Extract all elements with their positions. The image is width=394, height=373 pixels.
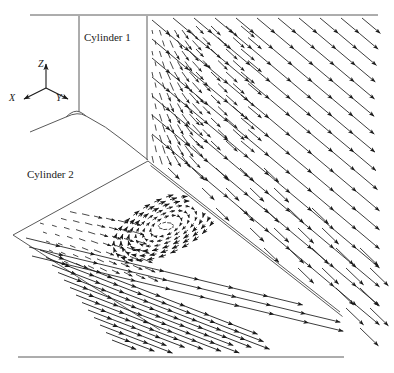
cylinder1-base-fillet <box>30 114 148 160</box>
velocity-vector <box>185 206 189 207</box>
velocity-vector-field <box>26 18 388 353</box>
velocity-vector <box>178 83 183 92</box>
velocity-vector <box>194 18 212 33</box>
velocity-vector <box>138 212 144 216</box>
velocity-vector <box>118 254 127 258</box>
velocity-vector <box>193 237 199 242</box>
velocity-vector <box>106 252 114 255</box>
velocity-vector <box>193 83 203 94</box>
velocity-vector <box>211 49 221 58</box>
velocity-vector <box>157 240 162 241</box>
flow-field-figure: Cylinder 1 Cylinder 2 Z X Y <box>0 0 394 373</box>
velocity-vector <box>312 248 329 264</box>
velocity-vector <box>82 282 106 291</box>
velocity-vector <box>240 208 254 222</box>
velocity-vector <box>167 51 170 58</box>
velocity-vector <box>94 250 101 253</box>
velocity-vector <box>338 33 357 49</box>
velocity-vector <box>155 41 156 45</box>
velocity-vector <box>73 221 79 223</box>
velocity-vector <box>202 188 214 200</box>
velocity-vector <box>175 93 180 102</box>
velocity-vector <box>151 233 153 235</box>
velocity-vector <box>209 336 233 345</box>
velocity-vector <box>100 268 107 271</box>
velocity-vector <box>64 255 99 263</box>
velocity-vector <box>357 230 380 249</box>
velocity-vector <box>152 249 158 250</box>
velocity-vector <box>88 289 112 298</box>
velocity-vector <box>172 245 179 248</box>
velocity-vector <box>249 120 270 137</box>
velocity-vector <box>189 165 208 181</box>
velocity-vector <box>61 252 66 254</box>
velocity-vector <box>182 226 186 230</box>
velocity-vector <box>175 232 180 235</box>
velocity-vector <box>257 18 275 33</box>
velocity-vector <box>70 212 77 214</box>
velocity-vector <box>288 248 304 263</box>
velocity-vector <box>112 340 136 349</box>
velocity-vector <box>143 295 167 304</box>
velocity-vector <box>152 72 153 77</box>
velocity-vector <box>249 139 270 156</box>
figure-canvas <box>0 0 394 373</box>
velocity-vector <box>315 49 334 65</box>
velocity-vector <box>170 35 189 51</box>
velocity-vector <box>209 124 229 141</box>
velocity-vector <box>233 107 244 117</box>
velocity-vector <box>291 99 312 116</box>
cylinder-1-label: Cylinder 1 <box>84 31 131 43</box>
velocity-vector <box>173 18 191 33</box>
velocity-vector <box>167 114 171 123</box>
velocity-vector <box>226 26 237 36</box>
velocity-vector <box>228 160 248 177</box>
velocity-vector <box>150 254 157 255</box>
velocity-vector <box>163 204 170 206</box>
velocity-vector <box>124 334 148 343</box>
velocity-vector <box>85 257 91 260</box>
velocity-vector <box>203 214 204 218</box>
velocity-vector <box>360 248 378 266</box>
velocity-vector <box>191 223 194 227</box>
velocity-vector <box>209 181 229 198</box>
velocity-vector <box>82 303 106 312</box>
velocity-vector <box>161 250 168 252</box>
velocity-vector <box>191 314 215 323</box>
velocity-vector <box>159 201 166 204</box>
velocity-vector <box>170 149 189 165</box>
velocity-vector <box>311 134 333 152</box>
velocity-vector <box>215 323 239 332</box>
velocity-vector <box>182 114 190 125</box>
velocity-vector <box>98 264 133 272</box>
velocity-vector <box>97 225 105 227</box>
velocity-vector <box>278 18 296 33</box>
velocity-vector <box>94 318 118 327</box>
velocity-vector <box>147 258 154 259</box>
velocity-vector <box>335 65 355 82</box>
velocity-vector <box>346 268 364 285</box>
velocity-vector <box>161 213 167 215</box>
velocity-vector <box>209 86 229 103</box>
velocity-vector <box>199 280 234 288</box>
velocity-vector <box>322 268 339 284</box>
velocity-vector <box>193 104 203 115</box>
velocity-vector <box>109 261 117 265</box>
velocity-vector <box>175 30 180 38</box>
velocity-vector <box>183 230 188 234</box>
velocity-vector <box>130 246 133 248</box>
velocity-vector <box>362 18 380 33</box>
velocity-vector <box>137 228 139 232</box>
velocity-vector <box>288 208 304 223</box>
velocity-vector <box>298 228 314 243</box>
velocity-vector <box>370 308 388 326</box>
velocity-vector <box>203 107 211 115</box>
velocity-vector <box>55 234 60 236</box>
velocity-vector <box>100 284 124 293</box>
velocity-vector <box>163 222 167 223</box>
velocity-vector <box>161 338 185 347</box>
velocity-vector <box>334 230 357 249</box>
velocity-vector <box>114 241 115 245</box>
velocity-vector <box>202 289 237 297</box>
velocity-vector <box>142 336 166 345</box>
